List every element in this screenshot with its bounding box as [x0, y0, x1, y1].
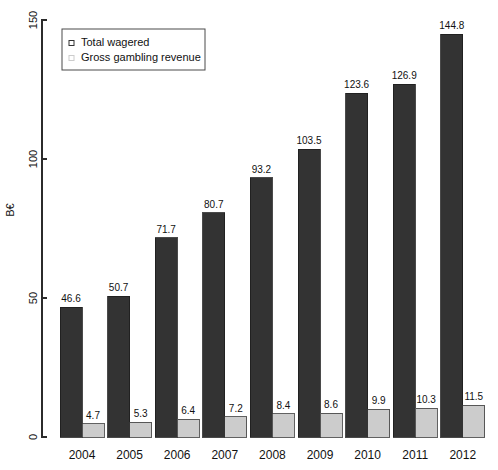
value-label-total-wagered: 93.2: [252, 164, 272, 175]
x-axis-category-label: 2006: [164, 448, 191, 462]
value-label-gross-gambling-revenue: 10.3: [416, 394, 436, 405]
value-label-total-wagered: 50.7: [109, 282, 129, 293]
bar-gross-gambling-revenue: [272, 414, 294, 437]
bar-gross-gambling-revenue: [82, 424, 104, 437]
bar-total-wagered: [250, 178, 272, 437]
y-axis-tick-label: 0: [27, 434, 39, 440]
x-axis-category-label: 2009: [307, 448, 334, 462]
bar-total-wagered: [298, 149, 320, 437]
value-label-total-wagered: 80.7: [204, 199, 224, 210]
x-axis-category-label: 2005: [116, 448, 143, 462]
value-label-total-wagered: 46.6: [61, 293, 81, 304]
bar-chart: 050100150 B€ 46.64.750.75.371.76.480.77.…: [0, 0, 498, 470]
value-label-total-wagered: 103.5: [296, 135, 321, 146]
bar-gross-gambling-revenue: [463, 405, 485, 437]
value-label-total-wagered: 71.7: [156, 224, 176, 235]
chart-canvas: 050100150 B€ 46.64.750.75.371.76.480.77.…: [0, 0, 498, 470]
x-axis-category-label: 2010: [354, 448, 381, 462]
value-label-total-wagered: 123.6: [344, 79, 369, 90]
x-axis-category-labels: 200420052006200720082009201020112012: [69, 448, 477, 462]
bar-gross-gambling-revenue: [225, 417, 247, 437]
bar-gross-gambling-revenue: [177, 419, 199, 437]
y-axis-tick-label: 100: [27, 150, 39, 168]
bar-total-wagered: [393, 84, 415, 437]
value-label-gross-gambling-revenue: 9.9: [372, 395, 386, 406]
value-label-gross-gambling-revenue: 4.7: [86, 410, 100, 421]
legend-label-total-wagered: Total wagered: [81, 36, 150, 48]
bar-total-wagered: [346, 93, 368, 437]
x-axis-category-label: 2008: [259, 448, 286, 462]
x-axis-category-label: 2012: [449, 448, 476, 462]
value-label-total-wagered: 144.8: [439, 20, 464, 31]
value-label-gross-gambling-revenue: 11.5: [464, 391, 483, 402]
x-axis-category-label: 2011: [402, 448, 428, 462]
bar-gross-gambling-revenue: [320, 413, 342, 437]
legend: Total wagered Gross gambling revenue: [62, 29, 205, 70]
y-axis-tick-label: 150: [27, 11, 39, 29]
value-label-gross-gambling-revenue: 7.2: [229, 403, 243, 414]
bar-gross-gambling-revenue: [415, 408, 437, 437]
value-label-gross-gambling-revenue: 6.4: [181, 405, 195, 416]
y-axis-title: B€: [4, 203, 16, 216]
y-axis-tick-label: 50: [27, 292, 39, 304]
value-label-total-wagered: 126.9: [392, 70, 417, 81]
bar-total-wagered: [441, 34, 463, 437]
value-label-gross-gambling-revenue: 8.6: [324, 399, 338, 410]
bar-total-wagered: [155, 238, 177, 437]
x-axis-category-label: 2007: [211, 448, 238, 462]
bar-total-wagered: [60, 307, 82, 437]
value-label-gross-gambling-revenue: 5.3: [134, 408, 148, 419]
value-label-gross-gambling-revenue: 8.4: [276, 400, 290, 411]
bar-total-wagered: [108, 296, 130, 437]
legend-label-gross-gambling-revenue: Gross gambling revenue: [81, 51, 201, 63]
x-axis-category-label: 2004: [69, 448, 96, 462]
bar-total-wagered: [203, 213, 225, 437]
bar-gross-gambling-revenue: [130, 422, 152, 437]
bar-gross-gambling-revenue: [368, 409, 390, 437]
